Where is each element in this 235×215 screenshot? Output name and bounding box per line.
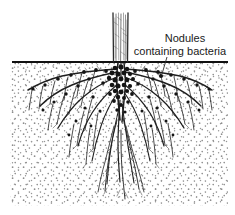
annotated-nodule — [159, 74, 163, 78]
diagram-canvas: Nodules containing bacteria — [0, 0, 235, 215]
plant-stem — [113, 13, 128, 62]
root-nodules-figure: Nodules containing bacteria — [0, 0, 235, 215]
annotation-line-2: containing bacteria — [134, 45, 227, 57]
annotation-line-1: Nodules — [165, 32, 206, 44]
